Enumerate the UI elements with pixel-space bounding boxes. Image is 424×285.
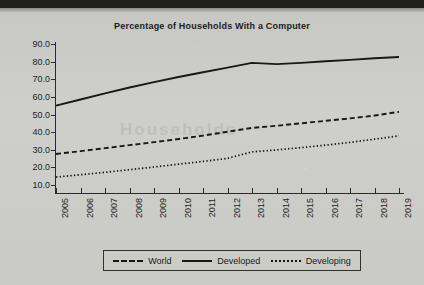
x-tick-label: 2006 bbox=[85, 198, 95, 218]
y-tick-label: 80.0 bbox=[32, 57, 50, 67]
y-axis-labels: 90.080.070.060.050.040.030.020.010.0 bbox=[0, 0, 50, 285]
y-tick-mark bbox=[51, 115, 55, 116]
y-tick-label: 40.0 bbox=[32, 127, 50, 137]
x-axis-line bbox=[55, 193, 404, 194]
x-tick-mark bbox=[350, 188, 351, 194]
y-tick-label: 20.0 bbox=[32, 162, 50, 172]
x-tick-mark bbox=[105, 188, 106, 194]
x-tick-mark bbox=[81, 188, 82, 194]
y-tick-label: 60.0 bbox=[32, 92, 50, 102]
x-tick-label: 2005 bbox=[60, 198, 70, 218]
scanned-page: Households Percentage of Households With… bbox=[0, 0, 424, 285]
chart-title: Percentage of Households With a Computer bbox=[0, 21, 424, 31]
y-tick-label: 70.0 bbox=[32, 74, 50, 84]
x-tick-mark bbox=[252, 188, 253, 194]
x-tick-mark bbox=[326, 188, 327, 194]
x-tick-label: 2013 bbox=[256, 198, 266, 218]
legend-swatch-dotted-icon bbox=[271, 260, 301, 262]
series-layer bbox=[0, 0, 424, 285]
x-tick-label: 2011 bbox=[207, 198, 217, 217]
y-tick-mark bbox=[51, 132, 55, 133]
x-tick-label: 2012 bbox=[232, 198, 242, 218]
x-tick-label: 2014 bbox=[281, 198, 291, 218]
legend-item-developed[interactable]: Developed bbox=[182, 256, 260, 266]
legend-swatch-dashed-icon bbox=[113, 260, 143, 262]
x-tick-mark bbox=[130, 188, 131, 194]
y-tick-mark bbox=[51, 167, 55, 168]
x-tick-label: 2016 bbox=[330, 198, 340, 218]
y-tick-label: 30.0 bbox=[32, 145, 50, 155]
y-axis-line bbox=[55, 42, 56, 194]
y-tick-mark bbox=[51, 62, 55, 63]
legend-label-developed: Developed bbox=[217, 256, 260, 266]
y-tick-mark bbox=[51, 185, 55, 186]
bleed-through-text: Households bbox=[120, 120, 350, 146]
x-tick-label: 2008 bbox=[134, 198, 144, 218]
series-line-developing bbox=[56, 136, 399, 177]
paper-speckle bbox=[0, 8, 424, 285]
x-tick-mark bbox=[375, 188, 376, 194]
x-tick-label: 2007 bbox=[109, 198, 119, 218]
legend-item-world[interactable]: World bbox=[113, 256, 171, 266]
x-tick-label: 2018 bbox=[379, 198, 389, 218]
y-tick-label: 90.0 bbox=[32, 39, 50, 49]
series-line-developed bbox=[56, 57, 399, 106]
x-tick-mark bbox=[56, 188, 57, 194]
legend-swatch-solid-icon bbox=[182, 260, 212, 262]
x-tick-label: 2017 bbox=[354, 198, 364, 218]
y-tick-mark bbox=[51, 44, 55, 45]
x-tick-mark bbox=[399, 188, 400, 194]
x-tick-label: 2015 bbox=[305, 198, 315, 218]
x-tick-mark bbox=[228, 188, 229, 194]
x-tick-mark bbox=[154, 188, 155, 194]
scan-top-band bbox=[0, 0, 424, 8]
x-tick-mark bbox=[301, 188, 302, 194]
x-tick-mark bbox=[179, 188, 180, 194]
x-tick-mark bbox=[277, 188, 278, 194]
x-tick-label: 2009 bbox=[158, 198, 168, 218]
y-tick-label: 50.0 bbox=[32, 110, 50, 120]
x-tick-label: 2019 bbox=[403, 198, 413, 218]
x-tick-mark bbox=[203, 188, 204, 194]
y-tick-mark bbox=[51, 97, 55, 98]
x-tick-label: 2010 bbox=[183, 198, 193, 218]
scan-top-band-fade bbox=[0, 8, 424, 13]
series-line-world bbox=[56, 112, 399, 154]
legend-label-world: World bbox=[148, 256, 171, 266]
y-tick-mark bbox=[51, 150, 55, 151]
legend-item-developing[interactable]: Developing bbox=[271, 256, 351, 266]
y-tick-label: 10.0 bbox=[32, 180, 50, 190]
y-tick-mark bbox=[51, 79, 55, 80]
legend-label-developing: Developing bbox=[306, 256, 351, 266]
chart-legend: World Developed Developing bbox=[103, 250, 361, 271]
